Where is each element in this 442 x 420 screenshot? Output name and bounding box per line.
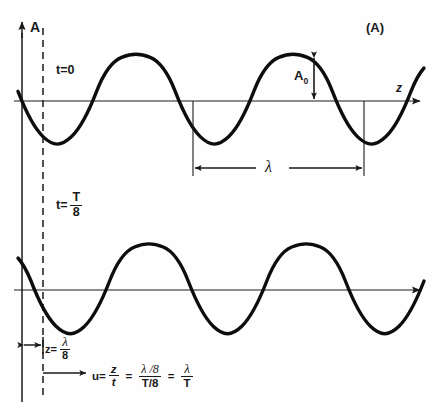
velocity-equation-f1-denominator: t [109, 376, 119, 388]
velocity-equation-lhs: u= [92, 371, 106, 383]
velocity-equation-fraction-3: λ T [181, 362, 192, 389]
distance-axis-label: z [396, 82, 402, 94]
amplitude-axis-label: A [30, 20, 40, 34]
shift-measure-numerator: λ [60, 335, 70, 350]
amplitude-measure-label-main: A [294, 68, 303, 83]
shift-measure-denominator: 8 [60, 350, 70, 362]
velocity-equation-f3-numerator: λ [181, 362, 192, 377]
shift-measure-prefix: z= [45, 344, 57, 355]
time-label-bottom: t= T 8 [56, 192, 82, 219]
panel-label: (A) [366, 21, 384, 34]
bottom-panel-group [14, 244, 424, 373]
time-label-bottom-prefix: t= [56, 199, 67, 212]
time-label-bottom-denominator: 8 [70, 206, 82, 219]
velocity-equation-fraction-2: λ /8 T/8 [139, 363, 161, 389]
shift-measure-label: z= λ 8 [45, 336, 70, 362]
velocity-equation-equals-1: = [126, 371, 133, 383]
time-label-bottom-fraction: T 8 [70, 191, 82, 218]
wave-figure: (A) A z t=0 t= T 8 A0 λ z= λ 8 u [0, 0, 442, 420]
time-label-top: t=0 [56, 64, 74, 77]
velocity-equation-equals-2: = [168, 371, 175, 383]
velocity-equation-f1-numerator: z [109, 363, 119, 376]
wave-curve-t-over-8 [18, 244, 424, 334]
time-label-bottom-numerator: T [70, 191, 82, 205]
velocity-equation: u= z t = λ /8 T/8 = λ T [92, 363, 193, 390]
velocity-equation-f2-denominator: T/8 [139, 377, 161, 389]
amplitude-measure-label-sub: 0 [303, 76, 308, 86]
wave-curve-t0 [18, 54, 424, 144]
wavelength-label: λ [265, 159, 272, 175]
velocity-equation-f3-denominator: T [181, 377, 192, 389]
shift-measure-fraction: λ 8 [60, 335, 70, 361]
amplitude-measure-label: A0 [294, 69, 308, 85]
velocity-equation-fraction-1: z t [109, 363, 119, 388]
velocity-equation-f2-numerator: λ /8 [139, 363, 161, 377]
